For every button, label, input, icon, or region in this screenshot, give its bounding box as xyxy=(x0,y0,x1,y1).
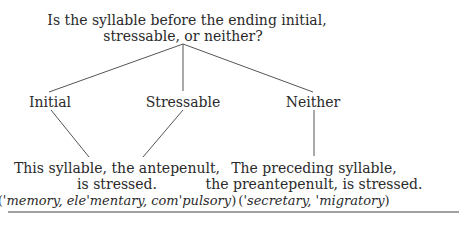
outcome-preantepenult-examples: ('secretary, 'migratory) xyxy=(238,192,389,209)
outcome-antepenult-line-2: is stressed. xyxy=(77,176,157,193)
paren-close: ) xyxy=(231,193,236,208)
edge-question-neither xyxy=(183,44,313,92)
edge-question-initial xyxy=(49,44,183,92)
branch-stressable: Stressable xyxy=(146,94,221,111)
question-line-2: stressable, or neither? xyxy=(103,28,263,45)
edge-stressable-antepenult xyxy=(143,110,183,157)
outcome-preantepenult-line-1: The preceding syllable, xyxy=(231,160,397,177)
outcome-preantepenult-line-2: the preantepenult, is stressed. xyxy=(206,176,423,193)
branch-initial: Initial xyxy=(29,94,71,111)
example-words: 'memory, ele'mentary, com'pulsory xyxy=(3,193,231,208)
branch-neither: Neither xyxy=(286,94,341,111)
example-words: 'secretary, 'migratory xyxy=(243,193,384,208)
question-line-1: Is the syllable before the ending initia… xyxy=(47,12,326,29)
paren-close: ) xyxy=(385,193,390,208)
edge-initial-antepenult xyxy=(51,110,89,157)
outcome-antepenult-examples: ('memory, ele'mentary, com'pulsory) xyxy=(0,192,236,209)
outcome-antepenult-line-1: This syllable, the antepenult, xyxy=(14,160,220,177)
